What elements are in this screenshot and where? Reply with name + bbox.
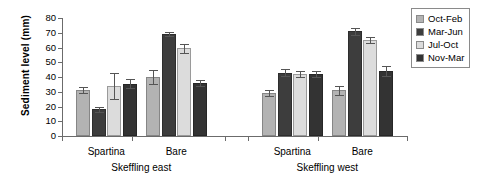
- legend-label: Nov-Mar: [428, 53, 464, 63]
- error-bar: [386, 66, 387, 76]
- y-tick-label: 80: [45, 13, 56, 23]
- category-label: Bare: [352, 146, 373, 157]
- error-bar-cap: [281, 69, 290, 70]
- error-bar-cap: [351, 35, 360, 36]
- y-tick: [58, 48, 63, 49]
- error-bar-cap: [110, 73, 119, 74]
- y-tick: [58, 18, 63, 19]
- error-bar-cap: [165, 32, 174, 33]
- bar: [177, 48, 191, 136]
- plot-area: 01020304050607080: [62, 18, 407, 137]
- y-tick: [58, 62, 63, 63]
- error-bar-cap: [196, 80, 205, 81]
- error-bar-cap: [265, 96, 274, 97]
- bar: [309, 74, 323, 136]
- y-tick-label: 40: [45, 72, 56, 82]
- error-bar-cap: [196, 86, 205, 87]
- panel-label: Skeffling east: [111, 162, 171, 173]
- bar: [92, 109, 106, 136]
- bar: [379, 71, 393, 136]
- bar: [363, 40, 377, 136]
- x-tick: [318, 136, 319, 141]
- legend-swatch: [416, 15, 424, 23]
- bar: [332, 90, 346, 136]
- error-bar: [114, 73, 115, 100]
- x-axis-line: [62, 136, 407, 137]
- legend-item: Mar-Jun: [416, 25, 464, 38]
- error-bar-cap: [126, 88, 135, 89]
- bar: [146, 77, 160, 136]
- legend-item: Nov-Mar: [416, 51, 464, 64]
- legend-swatch: [416, 54, 424, 62]
- category-label: Spartina: [274, 146, 311, 157]
- y-tick-label: 50: [45, 58, 56, 68]
- error-bar-cap: [95, 107, 104, 108]
- error-bar-cap: [79, 93, 88, 94]
- bar: [262, 93, 276, 136]
- error-bar-cap: [296, 71, 305, 72]
- error-bar-cap: [126, 79, 135, 80]
- y-tick-label: 10: [45, 117, 56, 127]
- y-axis-title: Sediment level (mm): [20, 1, 31, 131]
- error-bar: [153, 70, 154, 83]
- x-tick: [225, 136, 226, 141]
- error-bar-cap: [110, 99, 119, 100]
- y-tick: [58, 107, 63, 108]
- bar: [293, 74, 307, 136]
- error-bar: [285, 69, 286, 76]
- error-bar: [130, 79, 131, 88]
- error-bar: [339, 86, 340, 95]
- y-tick: [58, 77, 63, 78]
- legend-swatch: [416, 28, 424, 36]
- error-bar-cap: [281, 76, 290, 77]
- error-bar-cap: [296, 77, 305, 78]
- y-tick-label: 60: [45, 43, 56, 53]
- bar: [193, 83, 207, 136]
- bar: [123, 84, 137, 136]
- y-tick-label: 30: [45, 87, 56, 97]
- error-bar-cap: [95, 112, 104, 113]
- error-bar-cap: [149, 70, 158, 71]
- legend-label: Jul-Oct: [428, 40, 458, 50]
- error-bar-cap: [312, 77, 321, 78]
- legend-item: Oct-Feb: [416, 12, 464, 25]
- y-tick: [58, 92, 63, 93]
- x-tick: [407, 136, 408, 141]
- x-tick: [62, 136, 63, 141]
- error-bar-cap: [351, 28, 360, 29]
- panel-label: Skeffling west: [296, 162, 358, 173]
- category-label: Spartina: [88, 146, 125, 157]
- y-tick-label: 0: [51, 131, 56, 141]
- error-bar-cap: [366, 37, 375, 38]
- error-bar: [184, 44, 185, 53]
- error-bar-cap: [265, 90, 274, 91]
- bar: [76, 90, 90, 136]
- bar: [278, 73, 292, 136]
- legend-swatch: [416, 41, 424, 49]
- legend-label: Mar-Jun: [428, 27, 463, 37]
- bar: [348, 31, 362, 136]
- category-label: Bare: [166, 146, 187, 157]
- error-bar-cap: [180, 44, 189, 45]
- legend: Oct-FebMar-JunJul-OctNov-Mar: [411, 8, 470, 68]
- error-bar-cap: [312, 71, 321, 72]
- y-tick-label: 70: [45, 28, 56, 38]
- error-bar-cap: [335, 86, 344, 87]
- error-bar-cap: [180, 53, 189, 54]
- x-tick: [132, 136, 133, 141]
- x-tick: [248, 136, 249, 141]
- error-bar-cap: [149, 84, 158, 85]
- error-bar-cap: [382, 66, 391, 67]
- error-bar-cap: [79, 87, 88, 88]
- error-bar-cap: [335, 95, 344, 96]
- error-bar-cap: [366, 43, 375, 44]
- error-bar: [355, 28, 356, 35]
- error-bar-cap: [382, 76, 391, 77]
- legend-label: Oct-Feb: [428, 14, 462, 24]
- legend-item: Jul-Oct: [416, 38, 464, 51]
- error-bar-cap: [165, 36, 174, 37]
- y-tick: [58, 33, 63, 34]
- y-tick-label: 20: [45, 102, 56, 112]
- y-tick: [58, 121, 63, 122]
- bar: [162, 34, 176, 136]
